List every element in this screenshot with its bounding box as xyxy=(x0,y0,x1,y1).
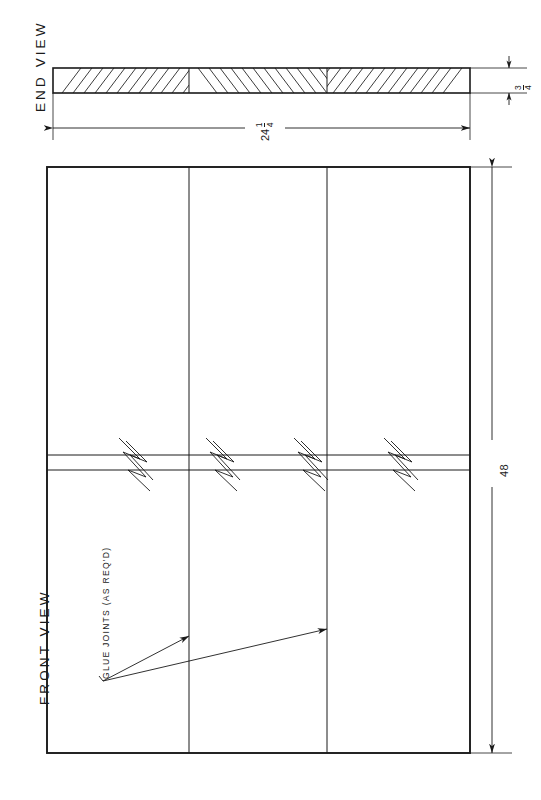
end-view-hatch-left xyxy=(53,56,222,105)
thickness-dimension xyxy=(470,56,527,105)
thickness-numerator: 3 xyxy=(514,85,523,90)
width-denominator: 4 xyxy=(266,123,275,128)
break-symbols xyxy=(119,438,418,491)
end-view-hatch-middle xyxy=(189,56,347,105)
width-dimension-text: 24 1 4 xyxy=(255,123,275,141)
thickness-denominator: 4 xyxy=(524,85,533,90)
glue-joint-leaders xyxy=(99,629,327,681)
width-fraction: 1 4 xyxy=(255,123,274,128)
glue-joints-callout: GLUE JOINTS (AS REQ'D) xyxy=(101,547,111,679)
length-dimension xyxy=(470,167,512,753)
technical-drawing-sheet: END VIEW FRONT VIEW GLUE JOINTS (AS REQ'… xyxy=(0,0,541,800)
end-view-title: END VIEW xyxy=(33,20,48,112)
width-numerator: 1 xyxy=(255,123,264,128)
end-view-geometry xyxy=(53,56,471,105)
drawing-canvas xyxy=(0,0,541,800)
front-view-title: FRONT VIEW xyxy=(37,589,52,705)
thickness-dimension-text: 3 4 xyxy=(514,85,533,90)
length-dimension-text: 48 xyxy=(498,464,510,477)
thickness-fraction: 3 4 xyxy=(514,85,533,90)
width-whole-number: 24 xyxy=(259,129,271,141)
front-view-glue-joint-lines xyxy=(189,167,327,753)
